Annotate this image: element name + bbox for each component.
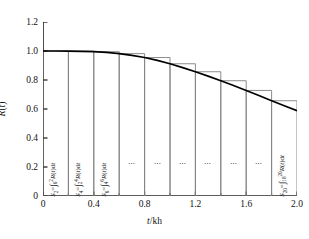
x-tick-label: 0.4 <box>88 199 100 209</box>
bar-integral-formula: S20=∫1820R(t)dt <box>278 155 288 197</box>
x-tick-label: 2.0 <box>291 199 303 209</box>
bar-ellipsis: ⋯ <box>128 160 136 168</box>
x-tick-label: 1.2 <box>189 199 201 209</box>
chart-figure: R(t) 00.20.40.60.81.01.2 00.40.81.21.62.… <box>0 0 309 239</box>
x-tick-label: 0 <box>41 199 46 209</box>
x-tick-label: 0.8 <box>139 199 151 209</box>
bar-ellipsis: ⋯ <box>255 160 263 168</box>
bar-integral-formula: S4=∫24R(t)dt <box>74 163 84 197</box>
plot-area: S2=∫02R(t)dtS4=∫24R(t)dtS6=∫46R(t)dt⋯⋯⋯⋯… <box>43 22 297 196</box>
bar-ellipsis: ⋯ <box>179 160 187 168</box>
x-axis-title: t/kh <box>0 216 309 226</box>
x-tick-label: 1.6 <box>240 199 252 209</box>
bar-ellipsis: ⋯ <box>230 160 238 168</box>
bar-integral-formula: S6=∫46R(t)dt <box>100 163 110 197</box>
bar-ellipsis: ⋯ <box>204 160 212 168</box>
bar-integral-formula: S2=∫02R(t)dt <box>49 163 59 197</box>
bar-ellipsis: ⋯ <box>154 160 162 168</box>
